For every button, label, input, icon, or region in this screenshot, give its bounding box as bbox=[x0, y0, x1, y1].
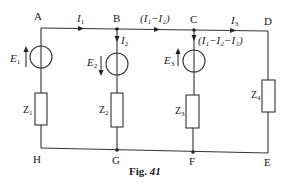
arrow-down-icon bbox=[192, 35, 197, 41]
current-label-i3: I3 bbox=[230, 14, 239, 28]
branch-c-f bbox=[176, 28, 206, 154]
node-label-e: E bbox=[264, 156, 271, 168]
impedance-z1 bbox=[35, 93, 47, 125]
impedance-z2 bbox=[111, 93, 123, 127]
node-label-h: H bbox=[33, 153, 41, 165]
impedance-label-z1: Z1 bbox=[23, 104, 33, 117]
arrow-right-icon bbox=[230, 28, 236, 33]
branch-a-h bbox=[24, 28, 53, 148]
node-label-d: D bbox=[264, 15, 272, 27]
node-label-c: C bbox=[190, 13, 197, 25]
arrow-down-icon bbox=[115, 36, 120, 42]
node-label-a: A bbox=[34, 10, 42, 22]
branch-d-e bbox=[262, 31, 275, 153]
bottom-wire bbox=[41, 148, 268, 153]
arrow-right-icon bbox=[154, 27, 160, 32]
source-label-e3: E3 bbox=[163, 54, 175, 68]
arrow-right-icon bbox=[78, 26, 84, 31]
junction-dot bbox=[191, 150, 195, 154]
current-label-branch-c-down: (I₁−I₂−I₃) bbox=[198, 34, 243, 47]
junction-dot bbox=[192, 28, 196, 32]
impedance-label-z4: Z4 bbox=[251, 89, 261, 102]
circuit-diagram: A B C D H G F E I1 I2 I3 (I₁−I₂) (I₁−I₂−… bbox=[0, 0, 291, 185]
impedance-label-z2: Z2 bbox=[99, 104, 109, 117]
impedance-label-z3: Z3 bbox=[175, 105, 185, 118]
junction-dot bbox=[115, 148, 119, 152]
node-label-f: F bbox=[189, 155, 195, 167]
current-label-i1: I1 bbox=[76, 12, 85, 26]
node-label-b: B bbox=[113, 12, 120, 24]
impedance-z4 bbox=[262, 80, 275, 112]
source-label-e1: E1 bbox=[9, 52, 21, 66]
current-label-i2: I2 bbox=[120, 34, 129, 48]
impedance-z3 bbox=[186, 95, 199, 128]
node-label-g: G bbox=[112, 154, 120, 166]
junction-dot bbox=[115, 27, 119, 31]
source-label-e2: E2 bbox=[86, 56, 98, 70]
figure-caption: Fig. 41 bbox=[129, 165, 161, 177]
current-label-branch-bc: (I₁−I₂) bbox=[140, 12, 170, 25]
